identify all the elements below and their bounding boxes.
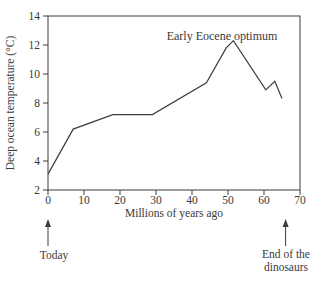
y-tick-label: 8	[34, 97, 40, 109]
temperature-line	[48, 41, 282, 174]
x-tick-label: 60	[258, 194, 270, 206]
y-tick-label: 4	[34, 155, 40, 167]
x-tick-label: 30	[150, 194, 162, 206]
x-axis-ticks: 010203040506070	[45, 190, 306, 206]
y-tick-label: 14	[29, 10, 41, 22]
up-arrow-head-icon	[45, 219, 51, 227]
up-arrow-head-icon	[283, 219, 289, 227]
x-tick-label: 0	[45, 194, 51, 206]
y-tick-label: 12	[29, 39, 41, 51]
y-tick-label: 6	[34, 126, 40, 138]
y-axis-ticks: 2468101214	[29, 10, 49, 196]
end-of-dinosaurs-label-line1: End of the	[262, 248, 310, 260]
y-tick-label: 2	[34, 184, 40, 196]
x-tick-label: 40	[186, 194, 198, 206]
marker-arrows	[45, 219, 289, 246]
x-axis-label: Millions of years ago	[125, 207, 223, 220]
annotation-early-eocene-optimum: Early Eocene optimum	[167, 29, 278, 43]
y-tick-label: 10	[29, 68, 41, 80]
y-axis-label: Deep ocean temperature (°C)	[4, 36, 17, 171]
deep-ocean-temperature-figure: 010203040506070 2468101214 Early Eocene …	[0, 0, 326, 285]
x-tick-label: 50	[222, 194, 234, 206]
x-tick-label: 20	[114, 194, 126, 206]
line-chart: 010203040506070 2468101214 Early Eocene …	[0, 0, 326, 285]
x-tick-label: 70	[294, 194, 306, 206]
x-tick-label: 10	[78, 194, 90, 206]
today-label: Today	[40, 249, 69, 262]
end-of-dinosaurs-label-line2: dinosaurs	[264, 261, 309, 273]
